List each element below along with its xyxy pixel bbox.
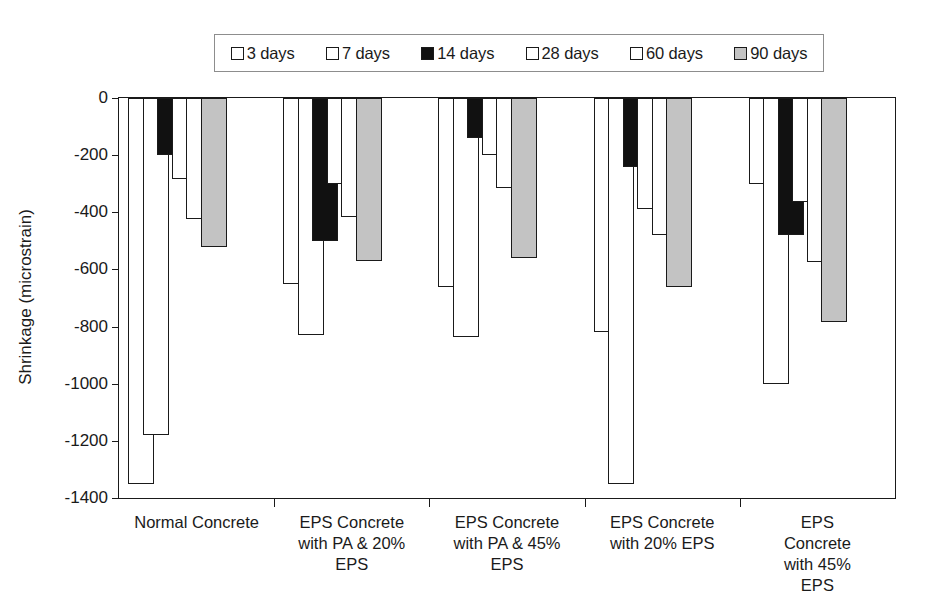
- legend-swatch-90-days: [734, 47, 747, 60]
- bar-4-5: [821, 98, 847, 322]
- y-tick-mark: [112, 269, 119, 270]
- y-tick-mark: [112, 327, 119, 328]
- legend-item-60-days: 60 days: [630, 44, 703, 63]
- y-tick-mark: [112, 441, 119, 442]
- y-tick-label: -600: [74, 259, 108, 279]
- legend-item-28-days: 28 days: [526, 44, 599, 63]
- legend-label-28-days: 28 days: [542, 44, 599, 63]
- x-axis-group-label: EPS Concrete with PA & 45% EPS: [453, 512, 560, 575]
- y-tick-mark: [112, 212, 119, 213]
- chart-root: 3 days 7 days 14 days 28 days 60 days 90…: [0, 0, 938, 604]
- y-axis-title: Shrinkage (microstrain): [16, 209, 36, 385]
- legend-label-90-days: 90 days: [750, 44, 807, 63]
- plot-inner: 0-200-400-600-800-1000-1200-1400Normal C…: [119, 98, 895, 498]
- group-separator: [429, 498, 430, 507]
- legend-swatch-3-days: [231, 47, 244, 60]
- y-tick-mark: [112, 98, 119, 99]
- legend-label-14-days: 14 days: [437, 44, 494, 63]
- group-separator: [740, 498, 741, 507]
- legend-label-60-days: 60 days: [646, 44, 703, 63]
- legend-swatch-28-days: [526, 47, 539, 60]
- bar-1-5: [356, 98, 382, 261]
- x-axis-group-label: EPS Concrete with 45% EPS: [779, 512, 857, 596]
- y-tick-label: -1000: [65, 374, 108, 394]
- group-separator: [274, 498, 275, 507]
- legend-item-90-days: 90 days: [734, 44, 807, 63]
- x-axis-group-label: Normal Concrete: [134, 512, 259, 533]
- y-tick-label: -200: [74, 145, 108, 165]
- chart-legend: 3 days 7 days 14 days 28 days 60 days 90…: [214, 34, 824, 72]
- y-axis-title-wrap: Shrinkage (microstrain): [32, 97, 56, 497]
- legend-swatch-14-days: [421, 47, 434, 60]
- group-separator: [585, 498, 586, 507]
- y-tick-label: -1200: [65, 431, 108, 451]
- x-axis-group-label: EPS Concrete with PA & 20% EPS: [298, 512, 405, 575]
- y-tick-label: -1400: [65, 488, 108, 508]
- legend-label-7-days: 7 days: [342, 44, 390, 63]
- x-axis-group-label: EPS Concrete with 20% EPS: [610, 512, 715, 554]
- bar-2-5: [511, 98, 537, 258]
- y-tick-label: 0: [99, 88, 108, 108]
- legend-label-3-days: 3 days: [247, 44, 295, 63]
- y-tick-mark: [112, 498, 119, 499]
- plot-area: 0-200-400-600-800-1000-1200-1400Normal C…: [118, 97, 896, 499]
- y-tick-label: -400: [74, 202, 108, 222]
- bar-0-5: [201, 98, 227, 247]
- legend-item-7-days: 7 days: [326, 44, 390, 63]
- legend-item-14-days: 14 days: [421, 44, 494, 63]
- y-tick-mark: [112, 155, 119, 156]
- legend-swatch-7-days: [326, 47, 339, 60]
- y-tick-label: -800: [74, 317, 108, 337]
- bar-3-5: [666, 98, 692, 287]
- y-tick-mark: [112, 384, 119, 385]
- legend-item-3-days: 3 days: [231, 44, 295, 63]
- legend-swatch-60-days: [630, 47, 643, 60]
